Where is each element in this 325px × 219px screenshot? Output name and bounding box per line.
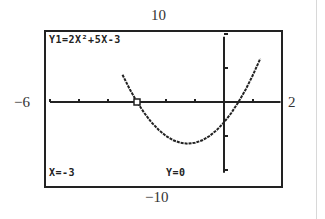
graph-plot (46, 32, 281, 186)
calculator-screen: Y1=2X²+5X-3 X=-3 Y=0 (44, 30, 283, 188)
trace-cursor (134, 99, 140, 105)
ymin-label: −10 (145, 190, 168, 205)
trace-y-value: Y=0 (166, 168, 186, 178)
xmax-label: 2 (288, 95, 296, 110)
axes (50, 34, 281, 173)
ymax-label: 10 (151, 8, 166, 23)
trace-x-value: X=-3 (49, 168, 75, 178)
equation-label: Y1=2X²+5X-3 (49, 35, 121, 45)
xmin-label: −6 (14, 95, 30, 110)
page-divider (316, 0, 317, 219)
